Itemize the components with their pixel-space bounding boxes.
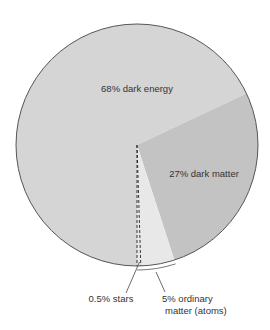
label-ordinary-matter-line1: 5% ordinary	[162, 293, 213, 304]
ordinary-matter-leader-line	[156, 272, 165, 292]
pie-chart: 68% dark energy 27% dark matter 0.5% sta…	[0, 0, 270, 330]
label-dark-matter: 27% dark matter	[169, 168, 239, 179]
label-stars: 0.5% stars	[89, 293, 134, 304]
stars-leader-line	[126, 262, 140, 293]
label-ordinary-matter-line2: matter (atoms)	[165, 305, 227, 316]
label-dark-energy: 68% dark energy	[101, 83, 173, 94]
